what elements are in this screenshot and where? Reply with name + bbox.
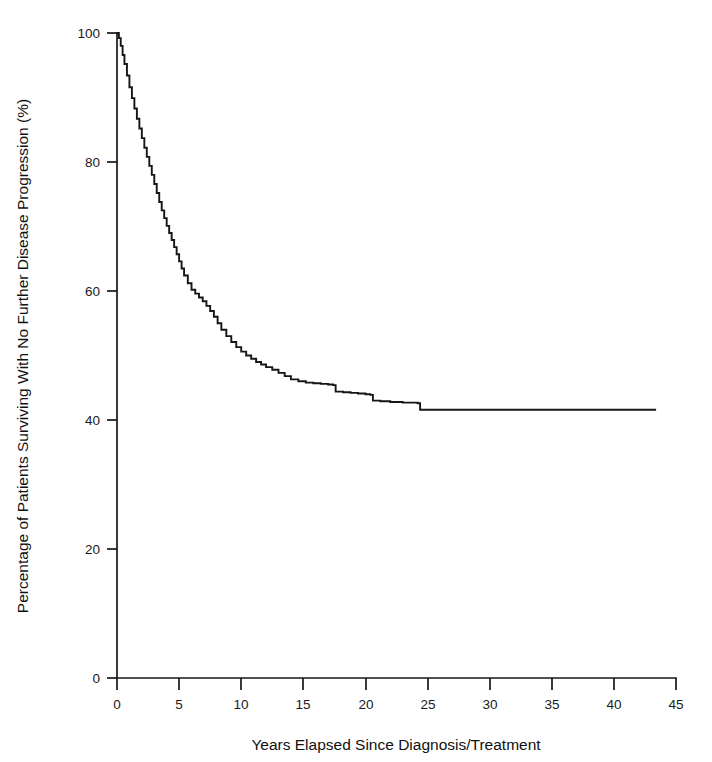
x-tick-labels: 0 5 10 15 20 25 30 35 40 45 [113,697,683,712]
y-tick-group [107,33,117,678]
x-tick-label-45: 45 [668,697,683,712]
y-tick-label-20: 20 [85,542,100,557]
y-tick-label-100: 100 [77,26,100,41]
y-axis-title: Percentage of Patients Surviving With No… [14,99,31,613]
x-tick-label-5: 5 [175,697,183,712]
x-tick-group [117,678,676,690]
x-tick-label-25: 25 [420,697,435,712]
x-tick-label-30: 30 [482,697,497,712]
y-tick-label-60: 60 [85,284,100,299]
y-tick-label-0: 0 [92,671,100,686]
x-tick-label-0: 0 [113,697,121,712]
y-tick-labels: 0 20 40 60 80 100 [77,26,100,686]
kaplan-meier-figure: 0 20 40 60 80 100 0 5 10 15 20 2 [0,0,712,762]
x-tick-label-35: 35 [544,697,559,712]
x-tick-label-10: 10 [233,697,248,712]
x-tick-label-20: 20 [358,697,373,712]
y-tick-label-40: 40 [85,413,100,428]
survival-curve-line [117,33,656,410]
x-axis-title: Years Elapsed Since Diagnosis/Treatment [251,736,541,753]
x-tick-label-40: 40 [606,697,621,712]
y-tick-label-80: 80 [85,155,100,170]
survival-curve-chart: 0 20 40 60 80 100 0 5 10 15 20 2 [0,0,712,762]
x-tick-label-15: 15 [295,697,310,712]
